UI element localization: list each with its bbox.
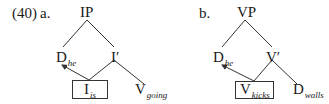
tree-a-specifier-node: Dhe bbox=[56, 50, 76, 67]
tree-a-complement-node: Vgoing bbox=[135, 82, 167, 99]
tree-b-bar-node: V′ bbox=[266, 50, 280, 65]
tree-b-specifier-node: Dhe bbox=[213, 50, 233, 67]
tree-b-complement-node: Dwalls bbox=[293, 82, 324, 99]
tree-a-head-node: Iis bbox=[84, 82, 96, 99]
example-number: (40) bbox=[12, 6, 37, 21]
tree-a-label: a. bbox=[40, 6, 50, 21]
tree-b-root-node: VP bbox=[237, 5, 256, 20]
tree-a-root-node: IP bbox=[80, 5, 93, 20]
tree-b-head-node: Vkicks bbox=[240, 82, 270, 99]
tree-b-label: b. bbox=[199, 6, 210, 21]
tree-a-bar-node: I′ bbox=[111, 50, 119, 65]
